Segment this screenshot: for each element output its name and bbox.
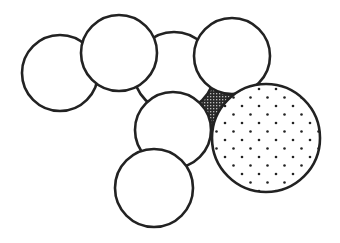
circle-b-upper-left bbox=[81, 15, 157, 91]
circle-f-bottom bbox=[115, 149, 193, 227]
circle-d-upper-right bbox=[194, 18, 270, 94]
circle-g-dotted bbox=[212, 84, 320, 192]
circle-packing-diagram bbox=[0, 0, 340, 243]
